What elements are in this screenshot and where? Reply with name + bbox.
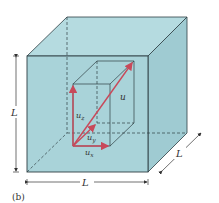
- svg-text:L: L: [175, 148, 183, 159]
- figure-caption: (b): [12, 192, 25, 202]
- cube-vector-diagram: u uz uy ux L L L (b): [0, 0, 219, 203]
- svg-text:L: L: [81, 177, 89, 188]
- dimension-width: L: [27, 176, 148, 188]
- label-u: u: [120, 92, 126, 102]
- outer-cube: [27, 17, 187, 172]
- dimension-height: L: [10, 56, 21, 172]
- svg-text:L: L: [10, 107, 18, 118]
